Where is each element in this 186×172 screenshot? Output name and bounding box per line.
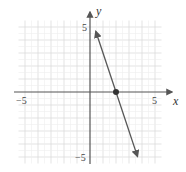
x-tick-max: 5	[152, 95, 157, 106]
coordinate-plane: x y −5 5 5 −5	[0, 0, 186, 172]
x-intercept-point	[113, 89, 119, 95]
y-tick-max: 5	[82, 22, 87, 33]
x-tick-min: −5	[16, 95, 27, 106]
y-axis-label: y	[95, 4, 102, 18]
y-tick-min: −5	[75, 152, 86, 163]
x-axis-label: x	[172, 94, 179, 108]
